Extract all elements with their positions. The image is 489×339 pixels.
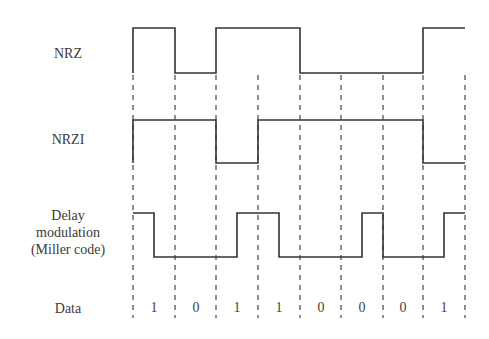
- data-bit: 1: [434, 300, 454, 316]
- miller-waveform: [133, 213, 465, 257]
- data-bit: 0: [311, 300, 331, 316]
- waveform-diagram: [0, 0, 489, 339]
- nrzi-waveform: [133, 120, 465, 163]
- nrz-waveform: [133, 28, 465, 73]
- bit-boundary-dashes: [133, 75, 465, 318]
- data-bit: 1: [227, 300, 247, 316]
- data-bit: 1: [269, 300, 289, 316]
- data-bit: 0: [393, 300, 413, 316]
- data-bit: 0: [352, 300, 372, 316]
- data-bit: 1: [144, 300, 164, 316]
- data-bit: 0: [186, 300, 206, 316]
